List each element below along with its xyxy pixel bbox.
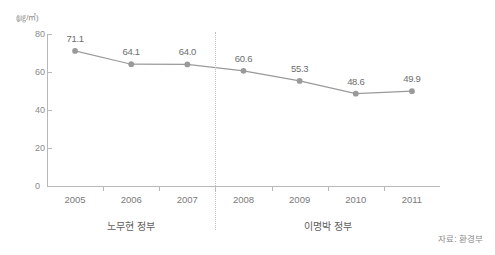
chart-container: (㎍/㎥) 020406080 71.164.164.060.655.348.6… (0, 0, 495, 255)
data-point-marker[interactable] (72, 48, 78, 54)
y-tick-label: 40 (35, 105, 41, 115)
x-tick-label: 2011 (402, 194, 422, 205)
source-note: 자료: 환경부 (438, 232, 483, 244)
x-tick-label: 2008 (233, 194, 254, 205)
x-tick-label: 2007 (177, 194, 198, 205)
data-value-label: 64.0 (179, 46, 196, 57)
data-point-marker[interactable] (409, 88, 415, 94)
data-value-label: 71.1 (66, 33, 83, 44)
x-tick-mark (159, 186, 160, 191)
y-tick-label: 20 (35, 143, 41, 153)
data-point-marker[interactable] (297, 78, 303, 84)
x-axis-line (47, 186, 440, 187)
data-value-label: 64.1 (123, 46, 140, 57)
data-value-label: 48.6 (347, 76, 364, 87)
x-tick-mark (272, 186, 273, 191)
y-axis-unit-label: (㎍/㎥) (16, 11, 39, 22)
data-point-marker[interactable] (353, 91, 359, 97)
era-divider-line (215, 32, 216, 230)
y-tick-mark (48, 186, 52, 187)
data-value-label: 49.9 (403, 73, 420, 84)
data-point-marker[interactable] (184, 62, 190, 68)
era-caption-right: 이명박 정부 (304, 218, 352, 233)
data-value-label: 60.6 (235, 53, 252, 64)
y-tick-label: 0 (35, 181, 41, 191)
x-tick-label: 2009 (289, 194, 310, 205)
data-point-marker[interactable] (128, 61, 134, 67)
data-point-marker[interactable] (241, 68, 247, 74)
y-tick-label: 60 (35, 67, 41, 77)
plot-area: 020406080 71.164.164.060.655.348.649.9 (47, 34, 440, 186)
x-tick-label: 2006 (121, 194, 142, 205)
era-caption-left: 노무현 정부 (107, 218, 155, 233)
x-tick-mark (328, 186, 329, 191)
x-tick-label: 2010 (345, 194, 366, 205)
y-tick-label: 80 (35, 29, 41, 39)
data-value-label: 55.3 (291, 63, 308, 74)
x-tick-mark (103, 186, 104, 191)
x-tick-label: 2005 (64, 194, 85, 205)
x-tick-mark (384, 186, 385, 191)
